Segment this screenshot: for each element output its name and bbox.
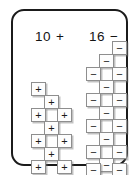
- minus-icon: −: [116, 42, 122, 53]
- minus-icon: −: [90, 146, 96, 157]
- column-header-left: 10+: [35, 30, 64, 44]
- minus-icon: −: [116, 68, 122, 79]
- tile-minus[interactable]: −: [112, 119, 127, 133]
- tile-plus[interactable]: +: [44, 147, 59, 161]
- tile-plus[interactable]: +: [57, 108, 72, 122]
- tile-minus[interactable]: −: [86, 93, 101, 107]
- tile-minus[interactable]: −: [86, 145, 101, 159]
- tile-plus[interactable]: +: [57, 160, 72, 174]
- tile-minus[interactable]: −: [86, 163, 101, 175]
- minus-icon: −: [103, 133, 109, 144]
- tile-minus[interactable]: −: [112, 41, 127, 55]
- tile-minus[interactable]: −: [112, 67, 127, 81]
- tile-plus[interactable]: +: [31, 134, 46, 148]
- screenshot-root: 10+ 16− ++++++++++ −−−−−−−−−−−−−−−−: [0, 0, 138, 175]
- plus-icon: +: [48, 148, 54, 159]
- minus-icon: −: [90, 164, 96, 175]
- tile-plus[interactable]: +: [31, 82, 46, 96]
- minus-icon: −: [103, 55, 109, 66]
- tile-minus[interactable]: −: [112, 163, 127, 175]
- tile-minus[interactable]: −: [112, 145, 127, 159]
- minus-icon: −: [90, 94, 96, 105]
- plus-icon: +: [61, 109, 67, 120]
- tile-cluster-minus: −−−−−−−−−−−−−−−−: [86, 41, 138, 175]
- plus-icon: +: [48, 122, 54, 133]
- plus-icon: +: [56, 29, 64, 44]
- minus-icon: −: [116, 164, 122, 175]
- minus-icon: −: [90, 120, 96, 131]
- plus-icon: +: [35, 135, 41, 146]
- plus-icon: +: [61, 161, 67, 172]
- tile-plus[interactable]: +: [57, 134, 72, 148]
- tile-plus[interactable]: +: [31, 160, 46, 174]
- minus-icon: −: [116, 94, 122, 105]
- tile-minus[interactable]: −: [86, 119, 101, 133]
- minus-icon: −: [116, 146, 122, 157]
- counter-card: 10+ 16− ++++++++++ −−−−−−−−−−−−−−−−: [11, 9, 128, 166]
- tile-minus[interactable]: −: [99, 54, 114, 68]
- plus-icon: +: [48, 96, 54, 107]
- tile-cluster-plus: ++++++++++: [31, 82, 77, 175]
- tile-minus[interactable]: −: [99, 80, 114, 94]
- plus-icon: +: [35, 83, 41, 94]
- plus-icon: +: [35, 109, 41, 120]
- tile-minus[interactable]: −: [112, 93, 127, 107]
- plus-icon: +: [35, 161, 41, 172]
- tile-plus[interactable]: +: [31, 108, 46, 122]
- minus-icon: −: [116, 120, 122, 131]
- minus-icon: −: [90, 68, 96, 79]
- tile-minus[interactable]: −: [86, 67, 101, 81]
- minus-icon: −: [103, 81, 109, 92]
- tile-plus[interactable]: +: [44, 95, 59, 109]
- tile-minus[interactable]: −: [99, 132, 114, 146]
- plus-icon: +: [61, 135, 67, 146]
- count-label-left: 10: [35, 29, 51, 44]
- minus-icon: −: [103, 107, 109, 118]
- tile-plus[interactable]: +: [44, 121, 59, 135]
- minus-icon: −: [103, 159, 109, 170]
- tile-minus[interactable]: −: [99, 106, 114, 120]
